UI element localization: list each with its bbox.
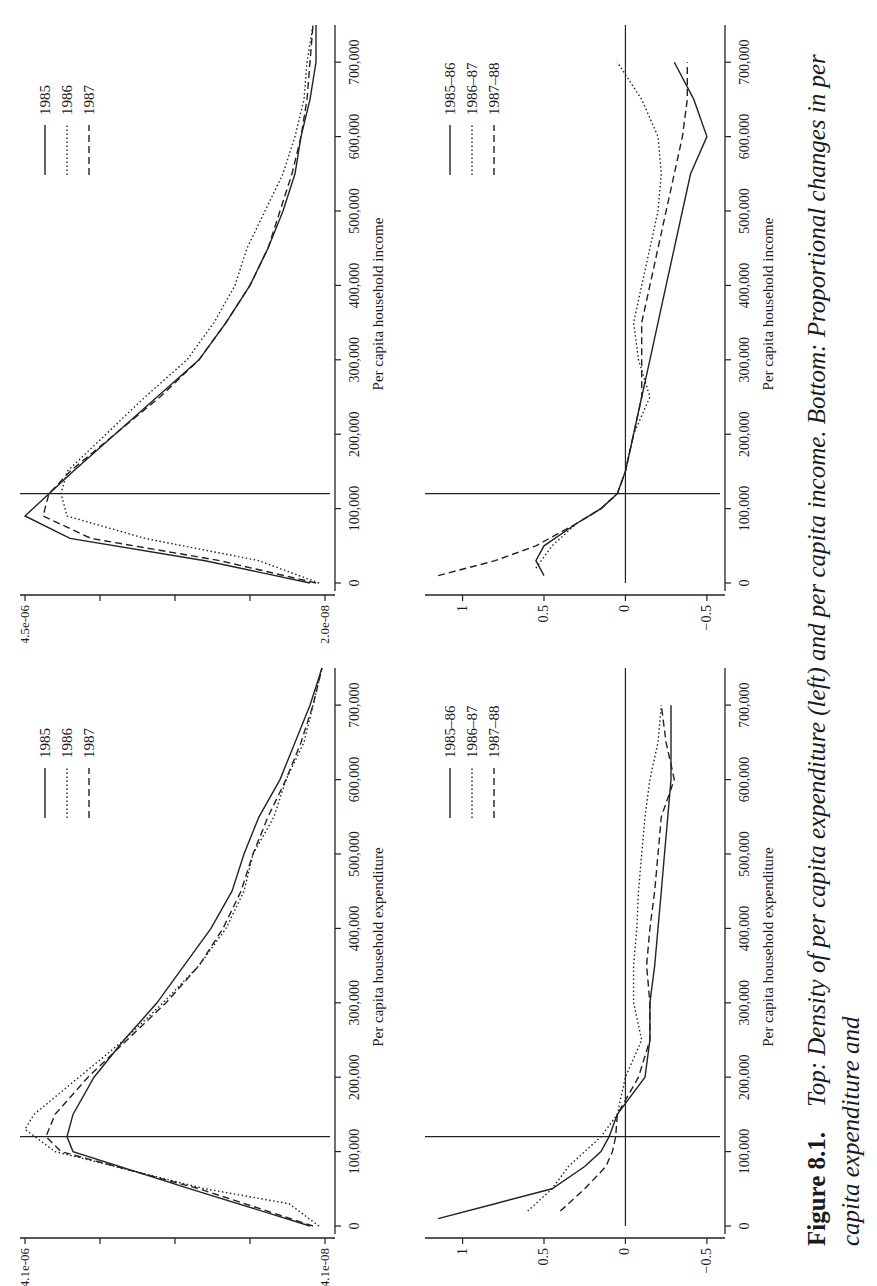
legend-label: 1986–87 [464,62,480,115]
figure-label: Figure 8.1. [803,1132,830,1246]
chart-top-left: 0100,000200,000300,000400,000500,000600,… [0,643,400,1286]
caption-text: Top: Density of per capita expenditure (… [803,54,864,1246]
legend-label: 1985 [37,728,53,758]
legend-label: 1986 [59,85,75,116]
panel-bottom-left: 0100,000200,000300,000400,000500,000600,… [410,643,790,1286]
x-tick-label: 100,000 [347,486,362,532]
x-axis-label: Per capita household expenditure [370,847,386,1047]
panel-bottom-right: 0100,000200,000300,000400,000500,000600,… [410,0,790,643]
x-axis-label: Per capita household income [760,217,776,390]
legend-label: 1987–88 [486,63,502,116]
legend-label: 1986–87 [464,705,480,758]
y-tick-label: 0.5 [536,1248,551,1266]
x-tick-label: 400,000 [347,263,362,309]
legend-label: 1987 [81,85,97,116]
legend-label: 1985–86 [442,705,458,758]
y-tick-label: 1 [455,605,470,612]
x-tick-label: 100,000 [347,1129,362,1175]
x-tick-label: 500,000 [347,831,362,877]
legend-label: 1985–86 [442,62,458,115]
y-tick-label: 1 [455,1248,470,1255]
y-tick-label: 4.5e-06 [17,605,32,643]
y-tick-label: 0 [617,1248,632,1255]
series-1986-87 [528,705,662,1211]
y-tick-label: −0.5 [699,1248,714,1273]
series-1986 [61,25,319,583]
x-tick-label: 400,000 [347,906,362,952]
x-tick-label: 600,000 [347,757,362,803]
x-tick-label: 600,000 [737,114,752,160]
x-tick-label: 200,000 [347,411,362,457]
x-tick-label: 600,000 [347,114,362,160]
legend-label: 1986 [59,728,75,759]
x-tick-label: 500,000 [737,188,752,234]
y-tick-label: −0.5 [699,605,714,630]
x-tick-label: 0 [347,1223,362,1230]
y-tick-label: 0.5 [536,605,551,623]
y-tick-label: 4.1e-08 [317,1248,332,1286]
legend-label: 1987–88 [486,706,502,759]
x-tick-label: 0 [737,580,752,587]
x-tick-label: 300,000 [737,980,752,1026]
x-tick-label: 200,000 [347,1054,362,1100]
x-tick-label: 100,000 [737,486,752,532]
series-1985 [67,668,322,1226]
chart-bottom-right: 0100,000200,000300,000400,000500,000600,… [410,0,790,643]
x-tick-label: 0 [737,1223,752,1230]
x-axis-label: Per capita household income [370,217,386,390]
x-tick-label: 500,000 [347,188,362,234]
x-tick-label: 300,000 [347,337,362,383]
x-tick-label: 700,000 [347,39,362,85]
x-tick-label: 700,000 [737,39,752,85]
legend-label: 1985 [37,85,53,115]
chart-top-right: 0100,000200,000300,000400,000500,000600,… [0,0,400,643]
chart-bottom-left: 0100,000200,000300,000400,000500,000600,… [410,643,790,1286]
series-1987-88 [438,62,687,575]
y-tick-label: 4.1e-06 [17,1248,32,1286]
x-tick-label: 700,000 [737,682,752,728]
series-1985-86 [438,705,671,1218]
panel-top-left: 0100,000200,000300,000400,000500,000600,… [0,643,400,1286]
x-tick-label: 0 [347,580,362,587]
x-tick-label: 300,000 [347,980,362,1026]
figure-page: 0100,000200,000300,000400,000500,000600,… [0,0,877,1286]
figure-caption: Figure 8.1. Top: Density of per capita e… [800,16,868,1246]
x-tick-label: 700,000 [347,682,362,728]
x-axis-label: Per capita household expenditure [760,847,776,1047]
x-tick-label: 200,000 [737,1054,752,1100]
x-tick-label: 300,000 [737,337,752,383]
x-tick-label: 100,000 [737,1129,752,1175]
x-tick-label: 400,000 [737,263,752,309]
y-tick-label: 0 [617,605,632,612]
x-tick-label: 500,000 [737,831,752,877]
legend-label: 1987 [81,728,97,759]
x-tick-label: 600,000 [737,757,752,803]
y-tick-label: 2.0e-08 [317,605,332,643]
x-tick-label: 400,000 [737,906,752,952]
series-1986-87 [536,62,661,568]
x-tick-label: 200,000 [737,411,752,457]
panel-top-right: 0100,000200,000300,000400,000500,000600,… [0,0,400,643]
series-1987-88 [560,705,674,1211]
